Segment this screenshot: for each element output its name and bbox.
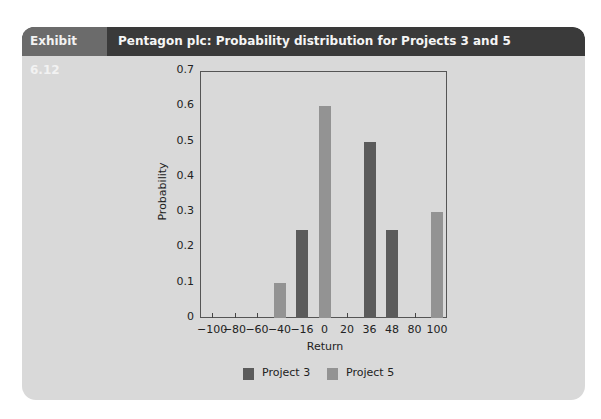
bar-project-5 <box>431 212 443 318</box>
legend-swatch-project-5 <box>327 368 338 380</box>
y-tick-label: 0.5 <box>164 134 194 147</box>
legend-label-project-3: Project 3 <box>262 366 310 379</box>
legend-label-project-5: Project 5 <box>346 366 394 379</box>
bar-project-3 <box>386 230 398 318</box>
y-tick-label: 0.4 <box>164 169 194 182</box>
legend-swatch-project-3 <box>243 368 254 380</box>
x-tick-mark <box>347 313 348 318</box>
bar-project-5 <box>274 283 286 318</box>
exhibit-label: Exhibit 6.12 <box>22 27 107 56</box>
x-tick-mark <box>415 313 416 318</box>
y-tick-label: 0.2 <box>164 239 194 252</box>
y-tick-label: 0.1 <box>164 275 194 288</box>
y-tick-label: 0.6 <box>164 98 194 111</box>
x-tick-mark <box>257 313 258 318</box>
exhibit-header: Exhibit 6.12 Pentagon plc: Probability d… <box>22 27 585 56</box>
x-tick-mark <box>235 313 236 318</box>
x-tick-label: 100 <box>422 323 452 336</box>
bar-project-5 <box>319 106 331 318</box>
bar-project-3 <box>296 230 308 318</box>
y-tick-label: 0.3 <box>164 204 194 217</box>
bar-project-3 <box>364 142 376 318</box>
y-tick-label: 0 <box>164 310 194 323</box>
exhibit-title: Pentagon plc: Probability distribution f… <box>118 27 511 56</box>
x-tick-mark <box>212 313 213 318</box>
x-axis-label: Return <box>295 340 355 353</box>
y-tick-label: 0.7 <box>164 63 194 76</box>
